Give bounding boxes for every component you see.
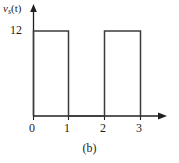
y-axis-label-argument: (t) bbox=[11, 2, 21, 14]
waveform-plot bbox=[0, 0, 179, 163]
x-tick-label-2: 2 bbox=[100, 122, 106, 134]
y-axis-arrowhead bbox=[30, 4, 37, 12]
x-tick-label-1: 1 bbox=[64, 122, 70, 134]
x-axis-arrowhead bbox=[158, 113, 167, 120]
y-axis-label: vs(t) bbox=[3, 3, 21, 16]
x-tick-label-3: 3 bbox=[136, 122, 142, 134]
waveform-figure: vs(t) 12 0 1 2 3 (b) bbox=[0, 0, 179, 163]
waveform-trace bbox=[34, 31, 141, 116]
y-tick-label-12: 12 bbox=[10, 24, 22, 36]
x-tick-label-0: 0 bbox=[29, 122, 35, 134]
figure-caption: (b) bbox=[0, 142, 179, 154]
